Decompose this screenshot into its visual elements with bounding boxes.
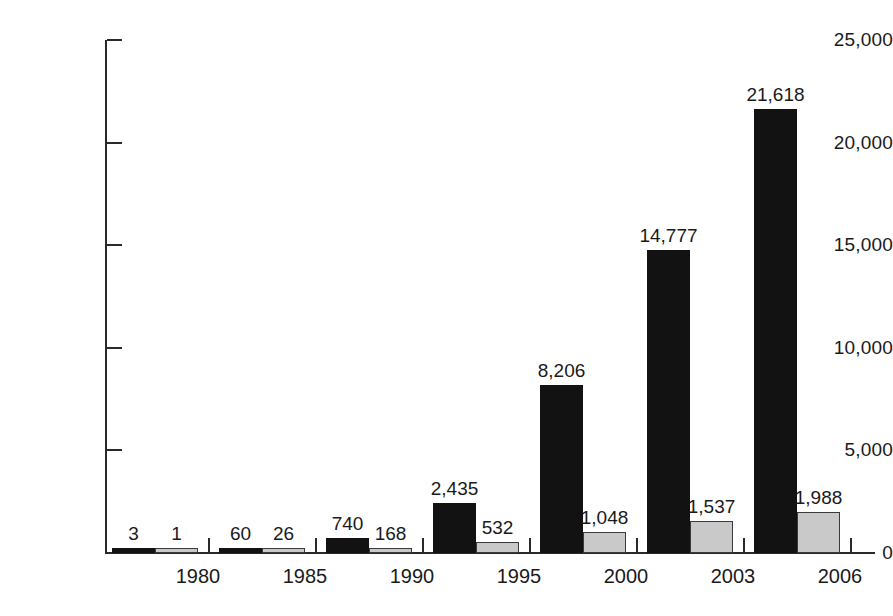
bar-series-dark-1980 — [112, 548, 155, 553]
bar-value-label: 1,048 — [561, 508, 648, 527]
bar-series-dark-2000 — [540, 385, 583, 553]
plot-area: 3160267401682,4355328,2061,04814,7771,53… — [105, 40, 875, 553]
bar-series-light-1980 — [155, 548, 198, 553]
bar-series-light-1985 — [262, 548, 305, 553]
bar-series-light-1990 — [369, 548, 412, 553]
bar-value-label: 168 — [347, 524, 434, 543]
bar-series-light-2006 — [797, 512, 840, 553]
bar-value-label: 21,618 — [732, 85, 819, 104]
bar-series-light-1995 — [476, 542, 519, 553]
bar-series-light-2000 — [583, 532, 626, 554]
bar-value-label: 14,777 — [625, 226, 712, 245]
bar-series-dark-2006 — [754, 109, 797, 553]
x-axis-label-2006: 2006 — [754, 566, 893, 586]
bar-value-label: 1,537 — [668, 497, 755, 516]
bar-value-label: 2,435 — [411, 479, 498, 498]
bar-value-label: 1,988 — [775, 488, 862, 507]
bar-series-light-2003 — [690, 521, 733, 553]
bar-chart: 05,00010,00015,00020,00025,000 316026740… — [0, 0, 893, 616]
bar-series-dark-1985 — [219, 548, 262, 553]
bar-value-label: 532 — [454, 518, 541, 537]
bar-value-label: 8,206 — [518, 361, 605, 380]
